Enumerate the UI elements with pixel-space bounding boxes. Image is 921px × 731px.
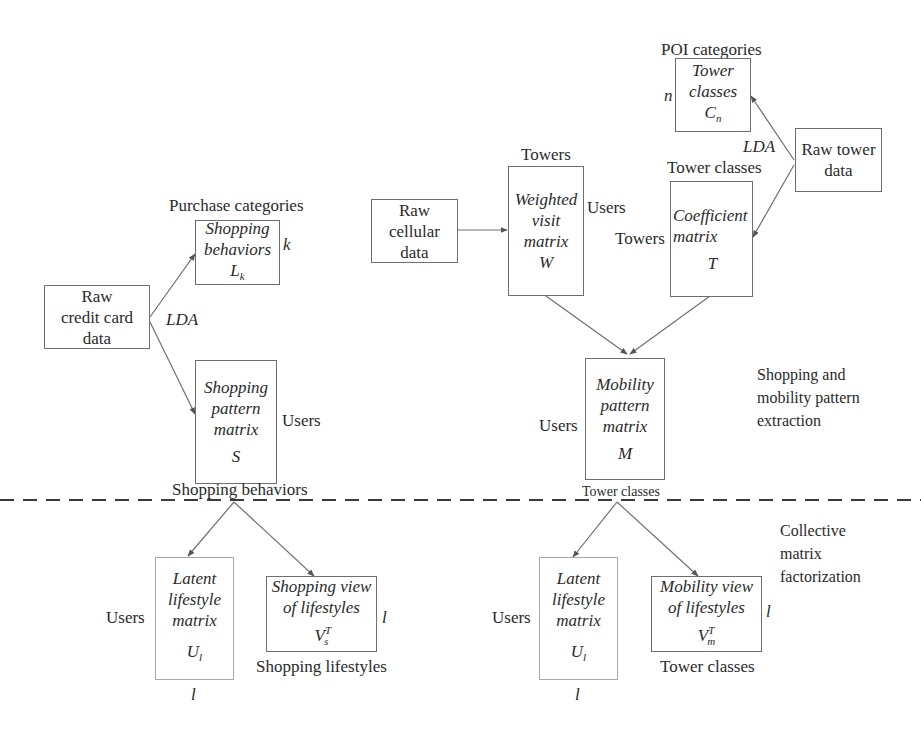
box-line: of lifestyles bbox=[283, 597, 360, 618]
matrix-symbol-cn: Cn bbox=[705, 102, 722, 129]
matrix-symbol-ul-right: Ul bbox=[571, 641, 586, 668]
matrix-symbol-w: W bbox=[539, 252, 553, 273]
matrix-symbol-m: M bbox=[618, 443, 632, 464]
box-line: cellular bbox=[389, 221, 440, 242]
box-line: data bbox=[400, 242, 428, 263]
shopping-lifestyles-label: Shopping lifestyles bbox=[256, 657, 387, 677]
latent-lifestyle-matrix-left-box: Latent lifestyle matrix Ul bbox=[155, 557, 234, 680]
box-line: Shopping bbox=[205, 218, 269, 239]
arrow-mobility-to-latent bbox=[573, 502, 617, 557]
box-line: Tower bbox=[692, 60, 734, 81]
box-line: matrix bbox=[556, 610, 600, 631]
users-label-shopping: Users bbox=[282, 411, 321, 431]
box-line: Coefficient bbox=[673, 205, 748, 226]
tower-classes-bottom-label: Tower classes bbox=[660, 657, 755, 677]
box-line: lifestyle bbox=[168, 589, 221, 610]
box-line: matrix bbox=[603, 416, 647, 437]
arrow-weighted-to-mobility bbox=[546, 296, 627, 354]
l-dimension-label-left: l bbox=[191, 685, 196, 705]
shopping-behaviors-axis-label: Shopping behaviors bbox=[172, 480, 308, 500]
mobility-view-of-lifestyles-box: Mobility view of lifestyles VTm bbox=[651, 576, 762, 652]
purchase-categories-label: Purchase categories bbox=[169, 196, 304, 216]
tower-classes-axis-label: Tower classes bbox=[582, 482, 660, 502]
poi-categories-label: POI categories bbox=[661, 40, 762, 60]
users-label-latent-right: Users bbox=[492, 608, 531, 628]
l-dimension-label-shopping: l bbox=[382, 608, 387, 628]
tower-classes-box: Tower classes Cn bbox=[675, 58, 751, 132]
section-label-factorization: Collective matrix factorization bbox=[780, 519, 910, 588]
arrow-credit-to-pattern bbox=[150, 322, 195, 414]
k-dimension-label: k bbox=[283, 235, 291, 255]
arrow-shopping-to-latent bbox=[188, 502, 234, 556]
tower-classes-label-top: Tower classes bbox=[667, 158, 762, 178]
arrow-mobility-to-view bbox=[617, 502, 698, 576]
box-line: Mobility view bbox=[660, 576, 753, 597]
matrix-symbol-t: T bbox=[708, 253, 717, 274]
raw-credit-card-data-box: Raw credit card data bbox=[44, 285, 150, 349]
users-label-weighted: Users bbox=[587, 198, 626, 218]
lda-label-tower: LDA bbox=[743, 137, 775, 157]
section-label-extraction: Shopping and mobility pattern extraction bbox=[757, 363, 887, 432]
matrix-symbol-vs-transpose: VTs bbox=[315, 620, 329, 652]
box-line: classes bbox=[689, 81, 737, 102]
box-line: behaviors bbox=[204, 239, 271, 260]
lifestyle-framework-diagram: Raw credit card data LDA Purchase catego… bbox=[0, 0, 921, 731]
box-line: matrix bbox=[524, 231, 568, 252]
box-line: Weighted bbox=[515, 189, 578, 210]
matrix-symbol-s: S bbox=[232, 446, 241, 467]
matrix-symbol-lk: Lk bbox=[230, 260, 244, 287]
box-line: data bbox=[83, 328, 111, 349]
box-line: matrix bbox=[673, 226, 717, 247]
raw-tower-data-box: Raw tower data bbox=[795, 128, 882, 192]
latent-lifestyle-matrix-right-box: Latent lifestyle matrix Ul bbox=[539, 557, 618, 680]
box-line: credit card bbox=[61, 307, 133, 328]
towers-label-left: Towers bbox=[615, 229, 665, 249]
mobility-pattern-matrix-box: Mobility pattern matrix M bbox=[585, 358, 665, 480]
box-line: pattern bbox=[600, 395, 649, 416]
box-line: of lifestyles bbox=[668, 597, 745, 618]
lda-label-credit: LDA bbox=[166, 310, 198, 330]
box-line: Shopping view bbox=[272, 576, 372, 597]
matrix-symbol-vm-transpose: VTm bbox=[698, 620, 715, 652]
box-line: Latent bbox=[557, 568, 600, 589]
matrix-symbol-ul: Ul bbox=[187, 641, 202, 668]
box-line: Raw tower bbox=[801, 139, 875, 160]
l-dimension-label-mobility: l bbox=[766, 602, 771, 622]
l-dimension-label-right: l bbox=[575, 685, 580, 705]
box-line: Raw bbox=[81, 286, 112, 307]
users-label-mobility: Users bbox=[539, 416, 578, 436]
box-line: visit bbox=[532, 210, 560, 231]
n-dimension-label: n bbox=[664, 86, 673, 106]
users-label-latent-left: Users bbox=[106, 608, 145, 628]
box-line: matrix bbox=[172, 610, 216, 631]
coefficient-matrix-box: Coefficient matrix T bbox=[670, 181, 753, 297]
shopping-view-of-lifestyles-box: Shopping view of lifestyles VTs bbox=[266, 576, 377, 652]
shopping-pattern-matrix-box: Shopping pattern matrix S bbox=[195, 360, 277, 484]
box-line: pattern bbox=[211, 398, 260, 419]
box-line: Mobility bbox=[596, 374, 654, 395]
box-line: matrix bbox=[214, 419, 258, 440]
box-line: lifestyle bbox=[552, 589, 605, 610]
arrow-coefficient-to-mobility bbox=[630, 296, 710, 354]
box-line: Raw bbox=[399, 200, 430, 221]
arrow-credit-to-behaviors bbox=[150, 254, 195, 317]
towers-label-top: Towers bbox=[521, 145, 571, 165]
box-line: data bbox=[824, 160, 852, 181]
shopping-behaviors-box: Shopping behaviors Lk bbox=[195, 220, 280, 285]
raw-cellular-data-box: Raw cellular data bbox=[371, 199, 458, 263]
box-line: Latent bbox=[173, 568, 216, 589]
box-line: Shopping bbox=[204, 377, 268, 398]
arrow-shopping-to-view bbox=[234, 502, 314, 576]
weighted-visit-matrix-box: Weighted visit matrix W bbox=[508, 166, 584, 296]
